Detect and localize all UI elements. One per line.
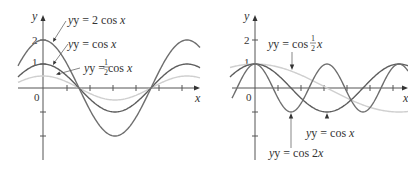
x-axis-arrow-icon [194, 86, 200, 91]
x-axis-label: x [194, 91, 201, 105]
label-cos-x: yy = cos x [67, 37, 117, 51]
svg-text:1: 1 [311, 34, 315, 43]
svg-text:yy = cos: yy = cos [267, 37, 308, 51]
right-chart: y x 0 2 1 yy = cos 1 2 x yy = cos x [230, 9, 408, 160]
y-axis-label: y [31, 9, 38, 23]
svg-text:cos x: cos x [108, 61, 133, 75]
origin-label: 0 [246, 91, 252, 103]
y-axis-arrow-icon [253, 15, 258, 21]
label-cos-half-x: yy = cos 1 2 x [267, 34, 323, 53]
figure: y x 0 2 1 yy = 2 cos x yy = cos x yy = 1 [0, 0, 408, 171]
label-cos-x: yy = cos x [305, 126, 355, 140]
label-2-cos-x: yy = 2 cos x [67, 13, 126, 27]
y-axis-arrow-icon [41, 15, 46, 21]
x-axis-arrow-icon [402, 86, 408, 91]
svg-text:yy =: yy = [83, 61, 105, 75]
label-half-cos-x: yy = 1 2 cos x [83, 58, 133, 77]
x-axis-label: x [402, 91, 408, 105]
label-cos-2x: yy = cos 2x [268, 146, 324, 160]
left-chart: y x 0 2 1 yy = 2 cos x yy = cos x yy = 1 [18, 9, 201, 160]
y-axis-label: y [243, 9, 250, 23]
svg-text:2: 2 [311, 44, 315, 53]
svg-text:x: x [316, 37, 323, 51]
origin-label: 0 [34, 91, 40, 103]
y-tick-2-label: 2 [244, 34, 250, 46]
